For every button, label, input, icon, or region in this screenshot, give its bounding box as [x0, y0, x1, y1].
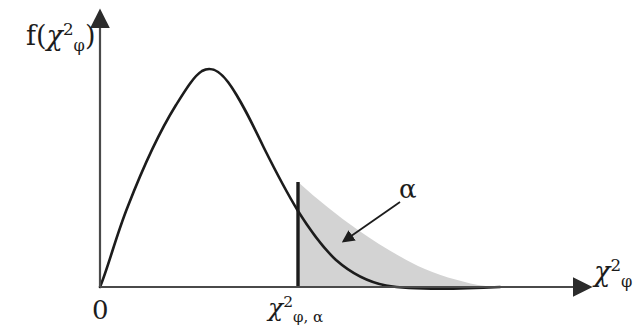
critical-value-sup: 2	[283, 293, 293, 311]
critical-value-tick-label: χ2φ, α	[268, 295, 323, 320]
alpha-annotation-arrow	[344, 202, 400, 241]
x-axis-label-sup: 2	[610, 255, 621, 275]
alpha-annotation-label: α	[399, 176, 417, 202]
y-axis-label: f(χ2φ)	[26, 22, 95, 49]
x-axis-label-var: χ	[594, 256, 610, 287]
y-axis-label-sup: 2	[63, 19, 74, 39]
y-axis-label-var: χ	[47, 20, 63, 51]
critical-value-sub: φ, α	[293, 308, 323, 326]
x-axis-label: χ2φ	[594, 258, 632, 285]
chi-square-plot	[0, 0, 642, 336]
chi-square-figure: f(χ2φ) χ2φ 0 χ2φ, α α	[0, 0, 642, 336]
y-axis-label-fn: f(	[26, 20, 47, 51]
critical-value-var: χ	[268, 293, 283, 322]
origin-tick-label: 0	[92, 297, 109, 323]
x-axis-label-sub: φ	[621, 272, 632, 291]
y-axis-label-close: )	[85, 20, 96, 51]
y-axis-label-sub: φ	[74, 36, 85, 55]
